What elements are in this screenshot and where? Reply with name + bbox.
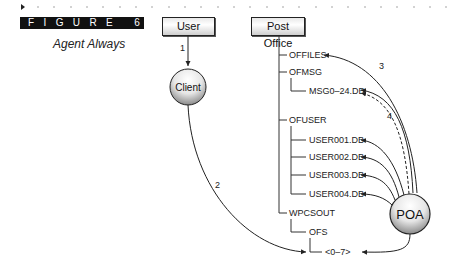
tree-ofmsg: OFMSG (289, 67, 322, 77)
step-2-label: 2 (215, 180, 220, 190)
step-3-label: 3 (379, 61, 384, 71)
arrow-poa-to-queue (362, 234, 410, 252)
poa-node: POA (390, 194, 430, 234)
tree-ofuser: OFUSER (289, 115, 327, 125)
tree-user003: USER003.DB (309, 170, 364, 180)
tree-ofs: OFS (309, 227, 328, 237)
step-4-label: 4 (387, 111, 392, 121)
arrow-user004 (361, 194, 392, 205)
client-label: Client (175, 82, 201, 93)
client-node: Client (170, 69, 206, 105)
arrow-user001 (361, 140, 404, 195)
arrow-user002 (361, 157, 399, 197)
arrow-step-4-dashed (361, 93, 409, 194)
tree-wpcsout: WPCSOUT (289, 208, 336, 218)
poa-label: POA (396, 207, 424, 222)
arrow-step-2 (188, 105, 306, 252)
tree-user001: USER001.DB (309, 135, 364, 145)
tree-msg-db: MSG0–24.DB (309, 86, 365, 96)
tree-user002: USER002.DB (309, 152, 364, 162)
tree-offiles: OFFILES (289, 50, 327, 60)
tree-queue: <0–7> (325, 247, 351, 257)
agent-always-diagram: 1 OFFILES OFMSG MSG0–24.DB OFUSER USER00… (0, 0, 451, 265)
tree-user004: USER004.DB (309, 189, 364, 199)
step-1-label: 1 (180, 43, 185, 53)
